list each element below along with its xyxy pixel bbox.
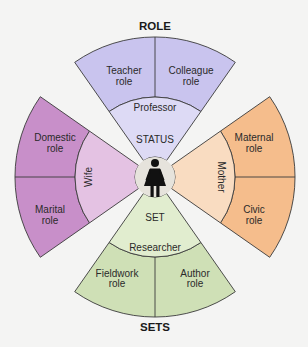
title-role: ROLE [139, 20, 171, 32]
status-professor: Professor [134, 102, 177, 113]
role-civic-line2: role [246, 215, 263, 226]
role-civic-line1: Civic [243, 204, 265, 215]
status-set-diagram: ROLE SETS STATUS SET Professor Researche… [0, 0, 308, 347]
role-colleague-line1: Colleague [168, 65, 213, 76]
label-set: SET [145, 212, 164, 223]
role-teacher-line2: role [116, 76, 133, 87]
status-researcher: Researcher [129, 242, 181, 253]
status-mother: Mother [216, 161, 227, 193]
role-teacher-line1: Teacher [106, 65, 142, 76]
role-author-line2: role [187, 278, 204, 289]
role-marital-line1: Marital [35, 204, 65, 215]
role-marital-line2: role [42, 215, 59, 226]
role-domestic-line1: Domestic [34, 132, 76, 143]
role-maternal-line2: role [246, 143, 263, 154]
role-fieldwork-line2: role [109, 278, 126, 289]
role-maternal-line1: Maternal [235, 132, 274, 143]
role-colleague-line2: role [183, 76, 200, 87]
title-sets: SETS [140, 321, 170, 333]
label-status: STATUS [136, 134, 174, 145]
status-wife: Wife [83, 167, 94, 187]
role-domestic-line2: role [47, 143, 64, 154]
